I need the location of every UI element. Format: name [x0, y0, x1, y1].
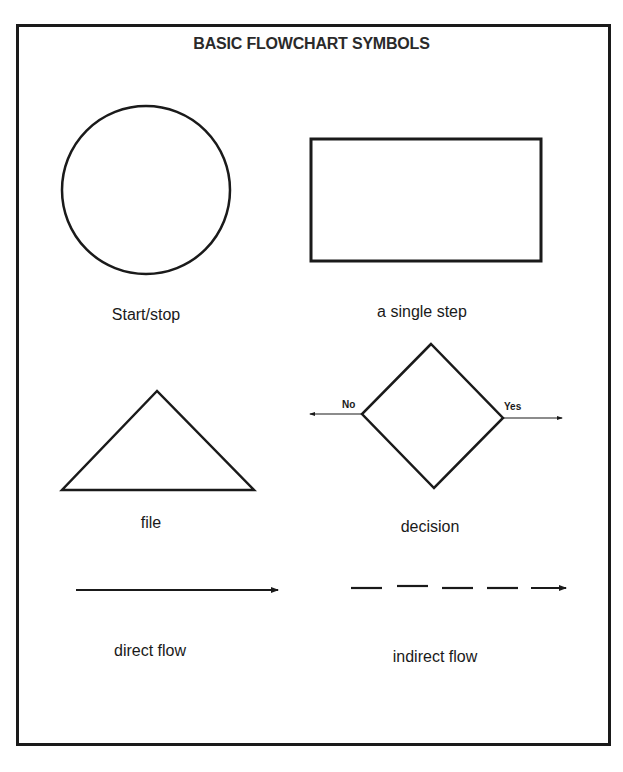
file-label: file: [141, 514, 161, 532]
start-stop-circle: [62, 106, 230, 274]
direct-flow-label: direct flow: [114, 642, 186, 660]
decision-diamond: [362, 344, 503, 488]
decision-label: decision: [401, 518, 460, 536]
indirect-flow-label: indirect flow: [393, 648, 477, 666]
start-stop-label: Start/stop: [112, 306, 180, 324]
single-step-label: a single step: [377, 303, 467, 321]
flowchart-symbols-canvas: [0, 0, 623, 772]
indirect-flow-arrow: [351, 586, 566, 588]
yes-branch-label: Yes: [504, 401, 521, 412]
file-triangle: [62, 391, 254, 490]
no-branch-label: No: [342, 399, 355, 410]
single-step-rectangle: [311, 139, 541, 261]
